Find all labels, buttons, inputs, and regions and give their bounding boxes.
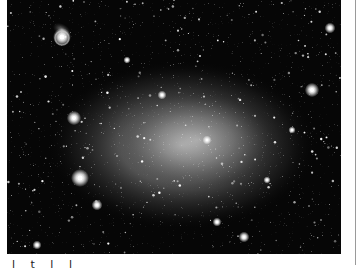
figure-caption: l t l l bbox=[12, 259, 78, 270]
galaxy-photo bbox=[7, 0, 341, 254]
starfield-image bbox=[7, 0, 341, 254]
page-margin-rule bbox=[355, 0, 356, 265]
